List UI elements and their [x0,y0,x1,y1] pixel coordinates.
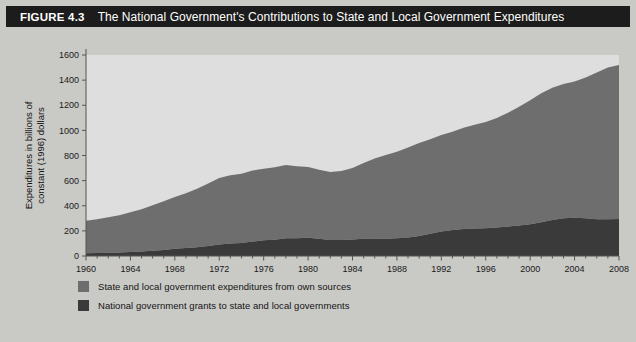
x-tick-label: 1988 [387,264,407,274]
y-tick-label: 400 [64,201,79,211]
y-axis-title-line1: Expenditures in billions of [23,101,34,209]
x-tick-label: 1964 [120,264,140,274]
x-tick-label: 2008 [609,264,629,274]
figure-title: The National Government's Contributions … [98,10,565,24]
chart-panel: 0200400600800100012001400160019601964196… [6,27,630,336]
legend-item-own-sources: State and local government expenditures … [78,279,630,293]
x-tick-label: 2004 [565,264,585,274]
y-tick-label: 600 [64,176,79,186]
y-tick-label: 1600 [59,50,79,60]
figure-number: FIGURE 4.3 [20,11,85,23]
x-tick-label: 1992 [431,264,451,274]
x-tick-label: 1980 [298,264,318,274]
figure-title-bar: FIGURE 4.3 The National Government's Con… [6,6,630,27]
y-tick-label: 1400 [59,75,79,85]
y-tick-label: 1000 [59,126,79,136]
y-tick-label: 1200 [59,100,79,110]
legend-swatch-national-grants [78,300,89,311]
x-tick-label: 1976 [254,264,274,274]
legend-label-own-sources: State and local government expenditures … [98,281,351,292]
figure-inner: FIGURE 4.3 The National Government's Con… [6,6,630,336]
x-tick-label: 1960 [76,264,96,274]
figure-container: FIGURE 4.3 The National Government's Con… [0,0,636,342]
legend-item-national-grants: National government grants to state and … [78,298,630,312]
x-tick-label: 1972 [209,264,229,274]
y-tick-label: 200 [64,226,79,236]
plot-area: 0200400600800100012001400160019601964196… [6,27,630,277]
x-tick-label: 2000 [520,264,540,274]
y-axis-title: Expenditures in billions ofconstant (199… [23,101,46,209]
legend-label-national-grants: National government grants to state and … [98,300,350,311]
y-axis-title-line2: constant (1996) dollars [35,107,46,204]
x-tick-label: 1996 [476,264,496,274]
y-tick-label: 0 [74,251,79,261]
stacked-area-chart: 0200400600800100012001400160019601964196… [6,27,630,277]
legend-swatch-own-sources [78,281,89,292]
y-tick-label: 800 [64,151,79,161]
x-tick-label: 1984 [342,264,362,274]
x-tick-label: 1968 [165,264,185,274]
chart-legend: State and local government expenditures … [6,279,630,317]
